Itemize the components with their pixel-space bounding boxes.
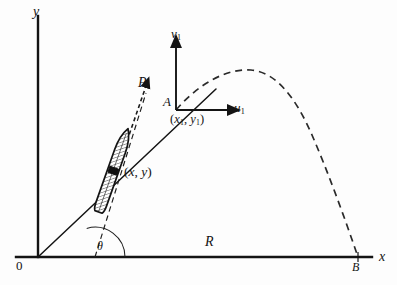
origin-label: 0	[16, 259, 23, 272]
theta-angle-arc	[87, 227, 125, 257]
u1-axis-symbol: u	[234, 100, 241, 115]
burnout-point-label: A	[163, 95, 171, 108]
range-label: R	[205, 235, 214, 249]
diagram-canvas	[0, 0, 397, 285]
thrust-vector-P	[127, 86, 146, 141]
v1-axis-symbol: v	[171, 26, 177, 41]
coords-close-paren: )	[200, 112, 204, 126]
body-coordinates-label: (x, y)	[124, 165, 152, 179]
x-axis-label: x	[379, 250, 385, 264]
global-axes	[16, 16, 372, 257]
projectile-trajectory-figure: y x 0 A B R P θ v1 u1 (x1, y1) (x, y)	[0, 0, 397, 285]
ballistic-trajectory-curve	[176, 70, 358, 257]
impact-point-label: B	[352, 261, 359, 273]
v1-axis-subscript: 1	[177, 33, 181, 42]
u1-axis-label: u1	[234, 101, 245, 116]
launch-angle-label: θ	[97, 240, 103, 252]
u1-axis-subscript: 1	[241, 107, 245, 116]
burnout-coordinates-label: (x1, y1)	[170, 113, 204, 126]
thrust-vector-label: P	[138, 76, 147, 90]
coords-x-symbol: x	[174, 112, 180, 126]
y-axis-label: y	[33, 5, 39, 19]
coords-y-symbol: y	[190, 112, 196, 126]
v1-axis-label: v1	[171, 27, 181, 42]
body-coords-close-paren: )	[147, 164, 152, 179]
